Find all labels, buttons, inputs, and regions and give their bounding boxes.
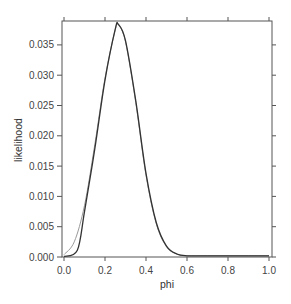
y-tick-label: 0.010 bbox=[29, 191, 54, 202]
y-tick-label: 0.035 bbox=[29, 39, 54, 50]
y-tick-label: 0.015 bbox=[29, 161, 54, 172]
series-lines bbox=[64, 22, 269, 256]
y-axis: 0.0000.0050.0100.0150.0200.0250.0300.035 bbox=[29, 39, 276, 262]
y-tick-label: 0.005 bbox=[29, 221, 54, 232]
x-tick-label: 0.2 bbox=[98, 265, 112, 276]
likelihood-chart: 0.00.20.40.60.81.0 0.0000.0050.0100.0150… bbox=[0, 0, 291, 304]
y-tick-label: 0.020 bbox=[29, 130, 54, 141]
y-axis-label: likelihood bbox=[12, 118, 24, 162]
x-tick-label: 0.8 bbox=[221, 265, 235, 276]
x-tick-label: 0.0 bbox=[57, 265, 71, 276]
x-tick-label: 0.4 bbox=[139, 265, 153, 276]
series-line-light bbox=[64, 23, 269, 256]
y-tick-label: 0.030 bbox=[29, 70, 54, 81]
plot-frame bbox=[62, 21, 272, 257]
x-tick-label: 0.6 bbox=[180, 265, 194, 276]
x-axis-label: phi bbox=[160, 278, 174, 290]
series-line-dark bbox=[64, 22, 269, 256]
x-axis: 0.00.20.40.60.81.0 bbox=[57, 17, 276, 276]
y-tick-label: 0.000 bbox=[29, 252, 54, 263]
x-tick-label: 1.0 bbox=[262, 265, 276, 276]
y-tick-label: 0.025 bbox=[29, 100, 54, 111]
